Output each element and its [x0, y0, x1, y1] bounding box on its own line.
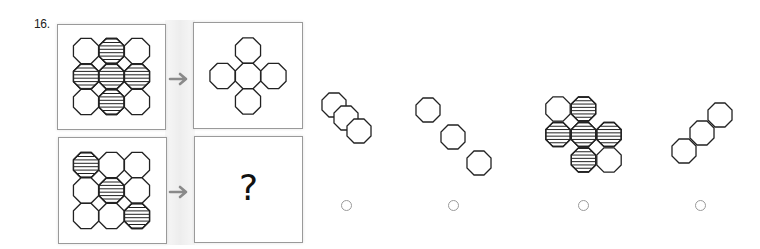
option-a-figure[interactable]: [318, 90, 378, 150]
plain-octagon: [235, 38, 260, 63]
option-b-radio[interactable]: [448, 200, 459, 211]
plain-octagon: [235, 89, 260, 114]
plain-octagon: [672, 139, 696, 163]
plain-octagon: [73, 178, 98, 203]
plain-octagon: [99, 203, 124, 228]
octagon-grid: [58, 25, 165, 129]
plain-octagon: [73, 38, 98, 63]
example-input-box: [57, 24, 166, 130]
plain-octagon: [347, 119, 371, 143]
question-mark: ?: [195, 167, 302, 208]
plain-octagon: [416, 98, 440, 122]
background-shade: [165, 20, 195, 245]
option-d-figure[interactable]: [664, 100, 744, 180]
problem-input-box: [58, 137, 167, 244]
answer-box: ?: [194, 136, 303, 243]
option-b-figure[interactable]: [410, 92, 500, 182]
plain-octagon: [235, 63, 260, 88]
plain-octagon: [124, 38, 149, 63]
option-d-radio[interactable]: [695, 200, 706, 211]
plain-octagon: [261, 63, 286, 88]
example-output-box: [193, 22, 303, 129]
plain-octagon: [708, 103, 732, 127]
plain-octagon: [73, 203, 98, 228]
option-c-radio[interactable]: [578, 200, 589, 211]
plain-octagon: [597, 148, 621, 172]
arrow-right-icon: [168, 185, 190, 199]
plain-octagon: [124, 178, 149, 203]
plain-octagon: [546, 97, 570, 121]
plain-octagon: [441, 125, 465, 149]
arrow-right-icon: [168, 72, 190, 86]
plain-octagon: [124, 89, 149, 114]
option-c-figure[interactable]: [540, 92, 630, 182]
plain-octagon: [73, 89, 98, 114]
plus-shape: [194, 23, 302, 128]
plain-octagon: [467, 151, 491, 175]
option-a-radio[interactable]: [341, 200, 352, 211]
plain-octagon: [99, 152, 124, 177]
octagon-grid: [59, 138, 166, 243]
plain-octagon: [124, 152, 149, 177]
plain-octagon: [690, 121, 714, 145]
plain-octagon: [210, 63, 235, 88]
question-number: 16.: [34, 17, 50, 31]
